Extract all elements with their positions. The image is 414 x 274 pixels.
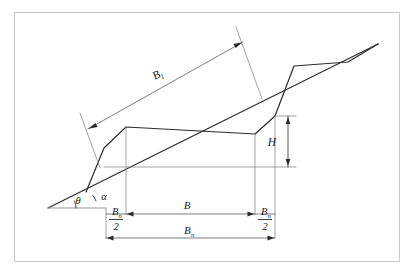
label-h: H — [267, 136, 277, 148]
label-bn-half-left-denominator: 2 — [113, 221, 119, 232]
label-bn-half-left-numerator-sub: n — [119, 212, 123, 219]
label-theta: θ — [75, 195, 80, 206]
label-bn-total-sub: n — [191, 231, 195, 239]
label-bn-half-right-denominator: 2 — [262, 221, 268, 232]
figure-border — [15, 13, 400, 262]
label-bn-total-base: B — [184, 224, 191, 236]
label-b: B — [184, 199, 191, 211]
label-bn-half-right-numerator-sub: n — [268, 212, 272, 219]
figure-frame: B l B H θ α B n 2 B n 2 B n — [0, 0, 414, 274]
slope-bench-diagram: B l B H θ α B n 2 B n 2 B n — [0, 0, 414, 274]
label-alpha: α — [101, 191, 107, 202]
